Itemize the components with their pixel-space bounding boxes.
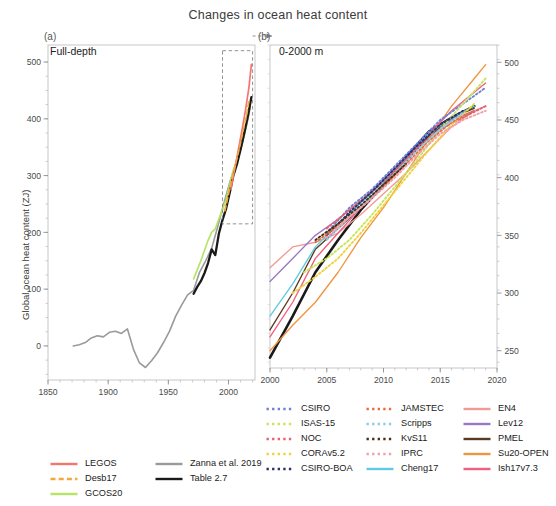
legend-item-pmel[interactable]: PMEL [463, 431, 549, 446]
panel-b-ytick: 450 [505, 115, 520, 125]
legend-item-lev12[interactable]: Lev12 [463, 416, 549, 431]
legend-swatch [463, 435, 491, 443]
legend-swatch [266, 420, 294, 428]
legend-label: IPRC [401, 449, 423, 458]
legend-item-kvs11[interactable]: KvS11 [366, 431, 444, 446]
panel-b-ytick: 250 [505, 346, 520, 356]
legend-label: LEGOS [85, 459, 117, 468]
legend-item-gcos20[interactable]: GCOS20 [50, 486, 122, 501]
legend-item-cheng17[interactable]: Cheng17 [366, 461, 444, 476]
legend-label: Desb17 [85, 474, 117, 483]
panel-b-series [270, 108, 474, 329]
legend-swatch [266, 435, 294, 443]
legend-swatch [463, 465, 491, 473]
legend-swatch [366, 465, 394, 473]
panel-b-xtick: 2020 [487, 375, 506, 385]
legend-b-column-3: EN4Lev12PMELSu20-OPENIsh17v7.3 [463, 401, 549, 476]
legend-swatch [155, 460, 183, 468]
legend-item-csiro-boa[interactable]: CSIRO-BOA [266, 461, 353, 476]
legend-label: PMEL [498, 434, 523, 443]
legend-swatch [266, 465, 294, 473]
legend-item-zanna-et-al-2019[interactable]: Zanna et al. 2019 [155, 456, 262, 471]
legend-item-ish17v7-3[interactable]: Ish17v7.3 [463, 461, 549, 476]
legend-swatch [266, 450, 294, 458]
legend-item-scripps[interactable]: Scripps [366, 416, 444, 431]
legend-item-en4[interactable]: EN4 [463, 401, 549, 416]
legend-swatch [50, 490, 78, 498]
legend-item-desb17[interactable]: Desb17 [50, 471, 122, 486]
panel-b-xtick: 2000 [260, 375, 279, 385]
legend-label: GCOS20 [85, 489, 122, 498]
panel-b-series [270, 106, 474, 357]
legend-label: ISAS-15 [301, 419, 335, 428]
legend-a-column-2: Zanna et al. 2019Table 2.7 [155, 456, 262, 486]
legend-label: EN4 [498, 404, 516, 413]
legend-swatch [366, 435, 394, 443]
legend-label: Scripps [401, 419, 432, 428]
legend-label: JAMSTEC [401, 404, 444, 413]
legend-label: Ish17v7.3 [498, 464, 538, 473]
figure-root: Changes in ocean heat content (a) (b) Fu… [0, 0, 556, 506]
legend-b-column-2: JAMSTECScrippsKvS11IPRCCheng17 [366, 401, 444, 476]
legend-swatch [463, 420, 491, 428]
panel-b-xtick: 2005 [317, 375, 336, 385]
legend-label: Su20-OPEN [498, 449, 549, 458]
panel-b-plot: 25030035040045050020002005201020152020 [0, 0, 556, 440]
legend-swatch [366, 450, 394, 458]
legend-label: CSIRO [301, 404, 330, 413]
legend-item-table-2-7[interactable]: Table 2.7 [155, 471, 262, 486]
legend-item-legos[interactable]: LEGOS [50, 456, 122, 471]
panel-b-ytick: 350 [505, 231, 520, 241]
legend-label: Cheng17 [401, 464, 438, 473]
panel-b-ytick: 400 [505, 173, 520, 183]
legend-swatch [366, 420, 394, 428]
panel-b-series [270, 106, 474, 316]
panel-b-xtick: 2015 [431, 375, 450, 385]
legend-item-csiro[interactable]: CSIRO [266, 401, 353, 416]
legend-swatch [50, 475, 78, 483]
legend-swatch [463, 405, 491, 413]
legend-swatch [50, 460, 78, 468]
legend-swatch [366, 405, 394, 413]
legend-label: Zanna et al. 2019 [190, 459, 262, 468]
legend-label: Table 2.7 [190, 474, 227, 483]
panel-b-ytick: 300 [505, 288, 520, 298]
legend-swatch [266, 405, 294, 413]
legend-item-su20-open[interactable]: Su20-OPEN [463, 446, 549, 461]
legend-swatch [155, 475, 183, 483]
legend-b-column-1: CSIROISAS-15NOCCORAv5.2CSIRO-BOA [266, 401, 353, 476]
legend-item-isas-15[interactable]: ISAS-15 [266, 416, 353, 431]
legend-a-column-1: LEGOSDesb17GCOS20 [50, 456, 122, 501]
legend-item-corav5-2[interactable]: CORAv5.2 [266, 446, 353, 461]
legend-label: NOC [301, 434, 321, 443]
legend-item-iprc[interactable]: IPRC [366, 446, 444, 461]
legend-swatch [463, 450, 491, 458]
legend-label: KvS11 [401, 434, 427, 443]
panel-b-xtick: 2010 [374, 375, 393, 385]
panel-b-ytick: 500 [505, 58, 520, 68]
legend-label: CORAv5.2 [301, 449, 345, 458]
legend-label: Lev12 [498, 419, 523, 428]
legend-label: CSIRO-BOA [301, 464, 353, 473]
legend-item-noc[interactable]: NOC [266, 431, 353, 446]
legend-item-jamstec[interactable]: JAMSTEC [366, 401, 444, 416]
